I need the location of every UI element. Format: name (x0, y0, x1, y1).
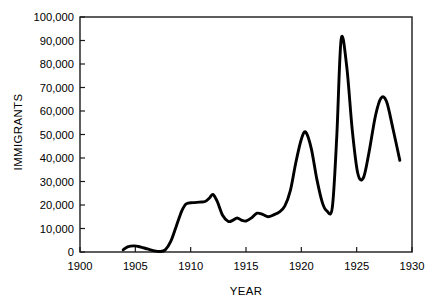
x-axis-title: YEAR (230, 285, 263, 297)
y-tick-label: 20,000 (40, 199, 74, 211)
y-tick-label: 80,000 (40, 58, 74, 70)
x-tick-label: 1920 (289, 260, 314, 272)
x-tick-label: 1925 (344, 260, 369, 272)
x-tick-label: 1910 (178, 260, 203, 272)
x-tick-label: 1930 (400, 260, 425, 272)
x-tick-label: 1905 (123, 260, 148, 272)
y-tick-label: 90,000 (40, 35, 74, 47)
y-axis-title: IMMIGRANTS (12, 94, 24, 171)
y-tick-label: 70,000 (40, 82, 74, 94)
y-tick-label: 0 (68, 246, 74, 258)
y-tick-label: 100,000 (34, 11, 74, 23)
y-tick-label: 50,000 (40, 129, 74, 141)
immigrants-line-chart: 010,00020,00030,00040,00050,00060,00070,… (0, 0, 436, 304)
plot-area-frame (80, 17, 412, 252)
y-tick-label: 60,000 (40, 105, 74, 117)
y-axis-ticks: 010,00020,00030,00040,00050,00060,00070,… (34, 11, 85, 258)
x-tick-label: 1915 (234, 260, 259, 272)
y-tick-label: 10,000 (40, 223, 74, 235)
x-tick-label: 1900 (68, 260, 93, 272)
y-tick-label: 40,000 (40, 152, 74, 164)
chart-container: 010,00020,00030,00040,00050,00060,00070,… (0, 0, 436, 304)
y-tick-label: 30,000 (40, 176, 74, 188)
